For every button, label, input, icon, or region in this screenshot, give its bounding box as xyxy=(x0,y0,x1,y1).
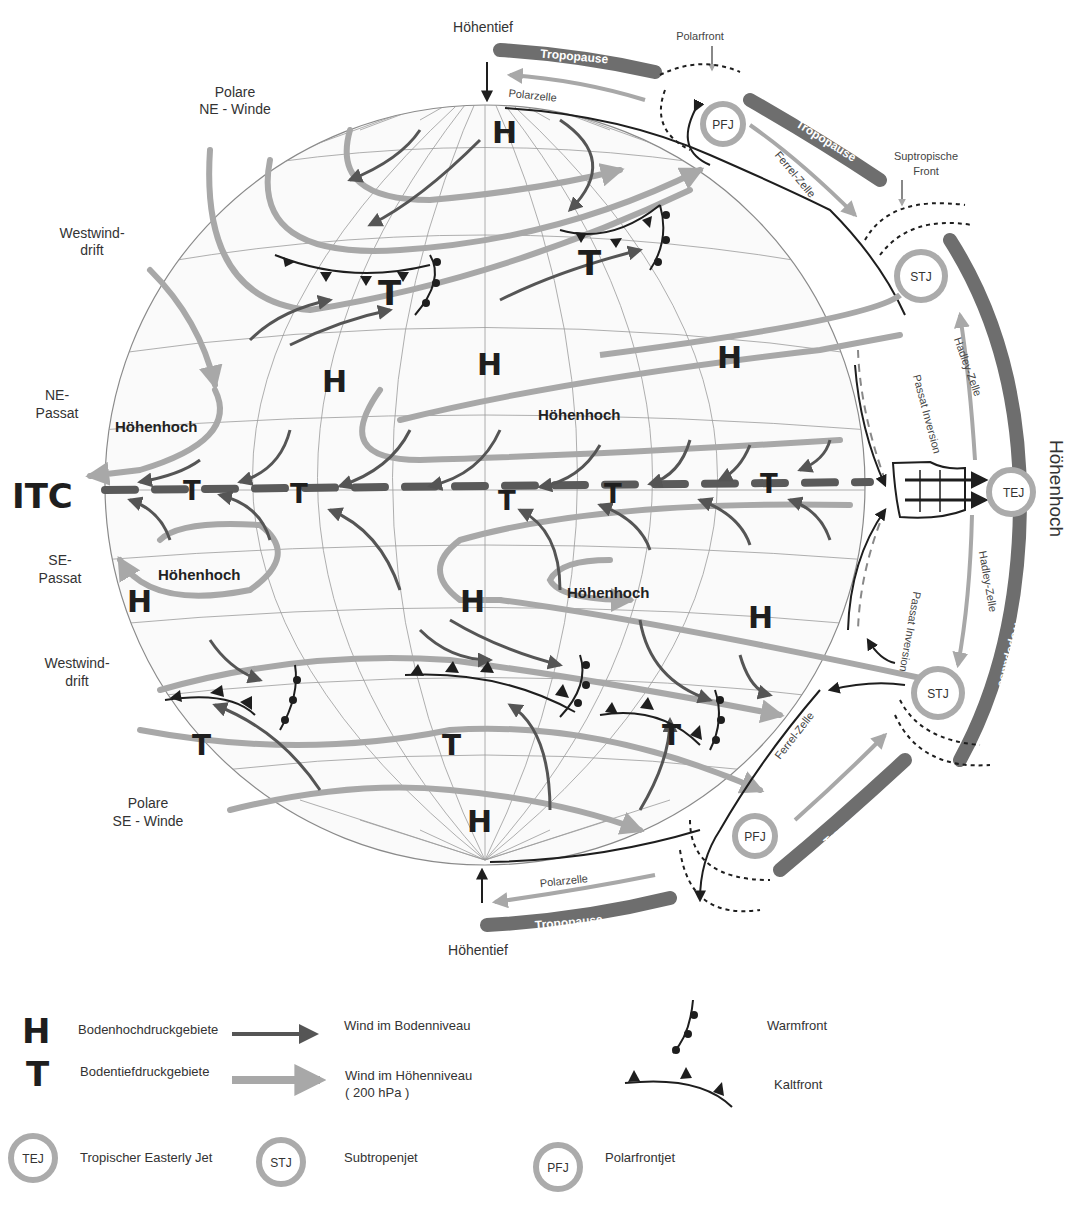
legend-stj-label: Subtropenjet xyxy=(344,1150,418,1165)
svg-text:Polare: Polare xyxy=(215,84,256,100)
legend-surface-wind-label: Wind im Bodenniveau xyxy=(344,1018,470,1033)
globe xyxy=(100,80,870,865)
high-pressure-south-pole: H xyxy=(467,804,492,839)
convection-tower xyxy=(893,462,985,518)
hoehenhoch-right-label: Höhenhoch xyxy=(1046,440,1067,537)
svg-text:Polarzelle: Polarzelle xyxy=(539,872,588,889)
legend-warmfront-label: Warmfront xyxy=(767,1018,828,1033)
legend: H Bodenhochdruckgebiete T Bodentiefdruck… xyxy=(11,1000,828,1189)
svg-text:Polarzelle: Polarzelle xyxy=(508,87,557,104)
low-pressure-itc: T xyxy=(498,486,516,516)
hoehenhoch-label: Höhenhoch xyxy=(158,566,241,583)
low-pressure: T xyxy=(192,729,211,762)
high-pressure: H xyxy=(460,584,485,619)
svg-text:Westwind-: Westwind- xyxy=(44,655,109,671)
legend-upper-wind-label: Wind im Höhenniveau xyxy=(345,1068,472,1083)
svg-text:Polarfront: Polarfront xyxy=(676,30,724,42)
low-pressure: T xyxy=(662,719,681,752)
high-pressure: H xyxy=(748,600,773,635)
low-pressure-itc: T xyxy=(604,479,622,509)
low-pressure: T xyxy=(578,243,602,283)
svg-text:Westwind-: Westwind- xyxy=(59,225,124,241)
high-pressure-north-pole: H xyxy=(492,115,517,150)
svg-text:TEJ: TEJ xyxy=(22,1152,43,1166)
svg-text:STJ: STJ xyxy=(910,270,931,284)
svg-text:Suptropische: Suptropische xyxy=(894,150,958,162)
legend-kaltfront-icon xyxy=(625,1081,732,1107)
itc-label: ITC xyxy=(12,476,73,516)
hoehentief-top-label: Höhentief xyxy=(453,19,513,35)
pfj-top-jet: PFJ xyxy=(703,104,743,144)
high-pressure: H xyxy=(717,340,742,375)
hoehenhoch-label: Höhenhoch xyxy=(538,406,621,423)
low-pressure-itc: T xyxy=(760,469,778,499)
legend-high-symbol: H xyxy=(22,1011,50,1051)
svg-text:PFJ: PFJ xyxy=(744,830,765,844)
svg-text:SE - Winde: SE - Winde xyxy=(113,813,184,829)
svg-text:( 200 hPa ): ( 200 hPa ) xyxy=(345,1085,409,1100)
low-pressure: T xyxy=(442,729,461,762)
svg-text:Tropopause: Tropopause xyxy=(794,117,859,165)
svg-text:STJ: STJ xyxy=(270,1156,291,1170)
svg-text:STJ: STJ xyxy=(927,687,948,701)
polar-front-zone xyxy=(660,64,740,75)
svg-text:TEJ: TEJ xyxy=(1003,486,1024,500)
high-pressure: H xyxy=(477,347,502,382)
legend-tej-label: Tropischer Easterly Jet xyxy=(80,1150,213,1165)
high-pressure: H xyxy=(322,364,347,399)
svg-text:Passat: Passat xyxy=(36,405,79,421)
svg-text:NE - Winde: NE - Winde xyxy=(199,101,271,117)
stj-bottom-jet: STJ xyxy=(914,669,962,717)
svg-text:Passat Inversion: Passat Inversion xyxy=(898,591,924,673)
svg-text:Hadley-Zelle: Hadley-Zelle xyxy=(977,550,1000,613)
svg-text:drift: drift xyxy=(65,673,88,689)
svg-text:Tropopause: Tropopause xyxy=(540,46,609,66)
high-pressure: H xyxy=(127,584,152,619)
global-circulation-diagram: H T T H H H T T T T T H H H T T T H Höhe… xyxy=(0,0,1091,1217)
svg-text:Passat: Passat xyxy=(39,570,82,586)
legend-low-symbol: T xyxy=(26,1054,50,1094)
tej-jet: TEJ xyxy=(989,470,1033,514)
svg-text:PFJ: PFJ xyxy=(712,118,733,132)
svg-text:NE-: NE- xyxy=(45,387,69,403)
low-pressure-itc: T xyxy=(290,479,308,509)
svg-text:Front: Front xyxy=(913,165,939,177)
hoehenhoch-label: Höhenhoch xyxy=(567,584,650,601)
hoehenhoch-label: Höhenhoch xyxy=(115,418,198,435)
low-pressure: T xyxy=(378,273,402,313)
svg-text:Passat Inversion: Passat Inversion xyxy=(911,373,944,455)
stj-top-jet: STJ xyxy=(897,252,945,300)
hoehentief-bottom-label: Höhentief xyxy=(448,942,508,958)
legend-pfj-label: Polarfrontjet xyxy=(605,1150,675,1165)
legend-kaltfront-label: Kaltfront xyxy=(774,1077,823,1092)
legend-low-label: Bodentiefdruckgebiete xyxy=(80,1064,209,1079)
svg-text:SE-: SE- xyxy=(48,552,72,568)
svg-text:drift: drift xyxy=(80,242,103,258)
legend-high-label: Bodenhochdruckgebiete xyxy=(78,1022,218,1037)
svg-text:PFJ: PFJ xyxy=(547,1161,568,1175)
low-pressure-itc: T xyxy=(183,476,201,506)
svg-text:Polare: Polare xyxy=(128,795,169,811)
legend-warmfront-icon xyxy=(673,1000,693,1053)
pfj-bottom-jet: PFJ xyxy=(735,816,775,856)
svg-text:Tropopause: Tropopause xyxy=(1010,297,1041,367)
